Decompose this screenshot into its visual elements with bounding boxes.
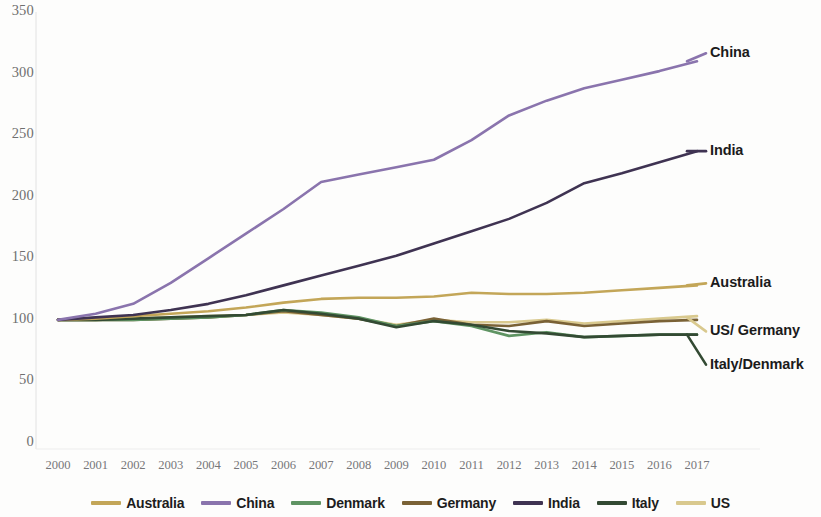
x-tick-label: 2010: [414, 458, 454, 473]
x-tick-label: 2015: [602, 458, 642, 473]
legend-item-denmark[interactable]: Denmark: [291, 495, 385, 511]
series-label-italy-denmark: Italy/Denmark: [710, 356, 804, 372]
legend-label: Australia: [126, 495, 184, 511]
x-tick-label: 2006: [264, 458, 304, 473]
legend-item-china[interactable]: China: [201, 495, 274, 511]
x-tick-label: 2004: [188, 458, 228, 473]
legend-swatch-icon: [513, 501, 543, 505]
x-tick-label: 2016: [639, 458, 679, 473]
series-line-australia: [58, 285, 697, 319]
x-tick-label: 2009: [376, 458, 416, 473]
chart-legend: AustraliaChinaDenmarkGermanyIndiaItalyUS: [0, 489, 821, 517]
x-tick-label: 2007: [301, 458, 341, 473]
legend-item-italy[interactable]: Italy: [597, 495, 659, 511]
legend-label: Germany: [437, 495, 496, 511]
legend-item-us[interactable]: US: [676, 495, 730, 511]
legend-swatch-icon: [676, 501, 706, 505]
legend-label: Denmark: [326, 495, 385, 511]
series-line-india: [58, 151, 697, 320]
legend-swatch-icon: [597, 501, 627, 505]
x-tick-label: 2012: [489, 458, 529, 473]
x-tick-label: 2013: [527, 458, 567, 473]
legend-item-india[interactable]: India: [513, 495, 580, 511]
label-connector: [687, 283, 706, 285]
x-tick-label: 2017: [677, 458, 717, 473]
series-label-us-germany: US/ Germany: [710, 322, 800, 338]
x-tick-label: 2008: [339, 458, 379, 473]
x-tick-label: 2002: [113, 458, 153, 473]
x-tick-label: 2005: [226, 458, 266, 473]
x-tick-label: 2001: [76, 458, 116, 473]
series-line-china: [58, 61, 697, 320]
label-connectors: [687, 53, 706, 364]
legend-swatch-icon: [201, 501, 231, 505]
series-lines: [58, 61, 697, 337]
x-tick-label: 2014: [564, 458, 604, 473]
series-label-india: India: [710, 142, 743, 158]
axis-lines: [36, 12, 760, 449]
legend-label: China: [236, 495, 274, 511]
legend-item-germany[interactable]: Germany: [402, 495, 496, 511]
legend-swatch-icon: [91, 501, 121, 505]
legend-swatch-icon: [291, 501, 321, 505]
plot-area: [0, 0, 821, 517]
label-connector: [687, 335, 706, 365]
series-label-china: China: [710, 44, 750, 60]
legend-swatch-icon: [402, 501, 432, 505]
x-tick-label: 2003: [151, 458, 191, 473]
line-chart: 050100150200250300350 ChinaIndiaAustrali…: [0, 0, 821, 517]
legend-label: US: [711, 495, 730, 511]
legend-label: India: [548, 495, 580, 511]
series-label-australia: Australia: [710, 274, 771, 290]
legend-item-australia[interactable]: Australia: [91, 495, 184, 511]
x-tick-label: 2000: [38, 458, 78, 473]
legend-label: Italy: [632, 495, 659, 511]
x-tick-label: 2011: [451, 458, 491, 473]
x-axis: 2000200120022003200420052006200720082009…: [0, 456, 821, 480]
